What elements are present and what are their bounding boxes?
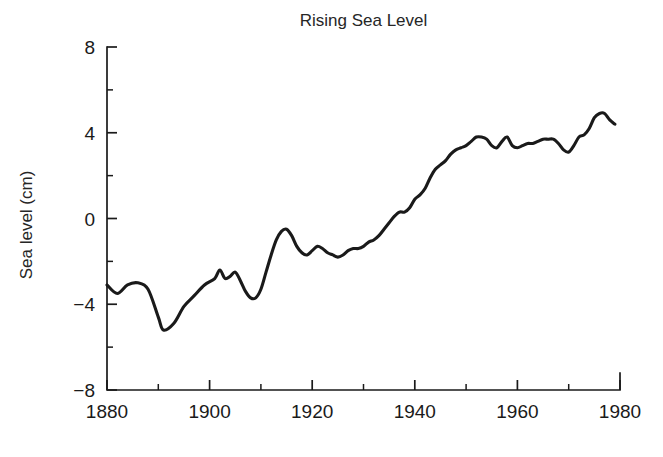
x-tick-label: 1920	[291, 401, 333, 422]
chart-figure: Rising Sea Level Sea level (cm) −8−4048 …	[0, 0, 663, 457]
y-tick-label: 0	[84, 209, 95, 230]
x-axis-ticks: 188019001920194019601980	[86, 380, 641, 422]
y-axis-ticks: −8−4048	[73, 37, 117, 401]
sea-level-line-chart: Rising Sea Level Sea level (cm) −8−4048 …	[0, 0, 663, 457]
y-tick-label: 4	[84, 123, 95, 144]
y-tick-label: −8	[73, 380, 95, 401]
x-tick-label: 1960	[496, 401, 538, 422]
y-tick-label: −4	[73, 294, 95, 315]
x-tick-label: 1880	[86, 401, 128, 422]
chart-title: Rising Sea Level	[300, 11, 428, 30]
x-tick-label: 1900	[188, 401, 230, 422]
axis-spine	[107, 47, 620, 390]
y-tick-label: 8	[84, 37, 95, 58]
data-series-line	[107, 113, 615, 330]
x-tick-label: 1940	[394, 401, 436, 422]
x-tick-label: 1980	[599, 401, 641, 422]
y-axis-title: Sea level (cm)	[17, 171, 36, 280]
